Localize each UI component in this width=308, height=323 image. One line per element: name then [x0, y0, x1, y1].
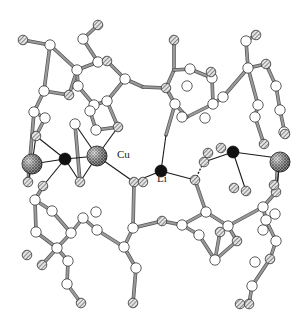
heteroatom [265, 254, 275, 264]
carbon-atom [85, 106, 95, 116]
carbon-atom [177, 220, 187, 230]
carbon-atom [31, 227, 41, 237]
carbon-atom [261, 215, 271, 225]
carbon-atom [271, 81, 281, 91]
copper-atom-shade [270, 152, 290, 172]
heteroatom [138, 177, 148, 187]
carbon-atom [131, 263, 141, 273]
carbon-atom [177, 112, 187, 122]
bond [248, 68, 258, 105]
copper-atom-shade [22, 154, 42, 174]
carbon-atom [253, 100, 263, 110]
heteroatom [251, 30, 261, 40]
heteroatom [22, 250, 32, 260]
bond [223, 68, 248, 97]
carbon-atom [70, 119, 80, 129]
carbon-atom [210, 255, 220, 265]
heteroatom [76, 298, 86, 308]
carbon-atom [63, 256, 73, 266]
carbon-atom [73, 81, 83, 91]
carbon-atom [91, 125, 101, 135]
carbon-atom [47, 206, 57, 216]
heteroatom [203, 148, 213, 158]
carbon-atom [92, 225, 102, 235]
heteroatom [259, 139, 269, 149]
carbon-atom [102, 96, 112, 106]
atoms [18, 20, 290, 309]
carbon-atom [91, 207, 101, 217]
bond [44, 45, 50, 91]
heteroatom [232, 236, 242, 246]
carbon-atom [78, 34, 88, 44]
carbon-atom [201, 207, 211, 217]
carbon-atom [208, 99, 218, 109]
heteroatom [102, 56, 112, 66]
carbon-atom [271, 236, 281, 246]
heteroatom [75, 177, 85, 187]
heteroatom [199, 157, 209, 167]
heteroatom [23, 177, 33, 187]
lithium-atom [227, 146, 239, 158]
bond [228, 207, 263, 226]
heteroatom [261, 59, 271, 69]
heteroatom [235, 299, 245, 309]
lithium-atom [59, 153, 71, 165]
carbon-atom [258, 202, 268, 212]
carbon-atom [243, 63, 253, 73]
li-label: Li [157, 172, 167, 184]
heteroatom [269, 180, 279, 190]
heteroatom [93, 20, 103, 30]
carbon-atom [200, 113, 210, 123]
heteroatom [280, 129, 290, 139]
carbon-atom [30, 195, 40, 205]
heteroatom [190, 175, 200, 185]
heteroatom [38, 181, 48, 191]
heteroatom [18, 35, 28, 45]
heteroatom [129, 177, 139, 187]
carbon-atom [93, 57, 103, 67]
bond [133, 182, 134, 228]
heteroatom [244, 299, 254, 309]
carbon-atom [128, 223, 138, 233]
carbon-atom [66, 228, 76, 238]
carbon-atom [258, 225, 268, 235]
heteroatom [169, 35, 179, 45]
carbon-atom [218, 92, 228, 102]
carbon-atom [194, 230, 204, 240]
carbon-atom [275, 105, 285, 115]
heteroatom [64, 90, 74, 100]
heteroatom [229, 183, 239, 193]
carbon-atom [45, 40, 55, 50]
carbon-atom [72, 65, 82, 75]
carbon-atom [270, 209, 280, 219]
carbon-atom [185, 64, 195, 74]
heteroatom [113, 122, 123, 132]
carbon-atom [182, 81, 192, 91]
carbon-atom [250, 257, 260, 267]
heteroatom [206, 67, 216, 77]
heteroatom [37, 260, 47, 270]
heteroatom [215, 227, 225, 237]
copper-atom-shade [87, 146, 107, 166]
cu-label: Cu [117, 148, 130, 160]
molecular-structure-diagram: Cu Li [0, 0, 308, 323]
carbon-atom [247, 281, 257, 291]
carbon-atom [40, 113, 50, 123]
carbon-atom [52, 243, 62, 253]
carbon-atom [29, 107, 39, 117]
carbon-atom [170, 99, 180, 109]
carbon-atom [119, 242, 129, 252]
heteroatom [31, 131, 41, 141]
carbon-atom [120, 74, 130, 84]
carbon-atom [241, 36, 251, 46]
heteroatom [216, 143, 226, 153]
heteroatom [241, 186, 251, 196]
heteroatom [161, 83, 171, 93]
heteroatom [128, 298, 138, 308]
carbon-atom [78, 213, 88, 223]
carbon-atom [39, 86, 49, 96]
carbon-atom [62, 279, 72, 289]
carbon-atom [250, 112, 260, 122]
heteroatom [157, 216, 167, 226]
